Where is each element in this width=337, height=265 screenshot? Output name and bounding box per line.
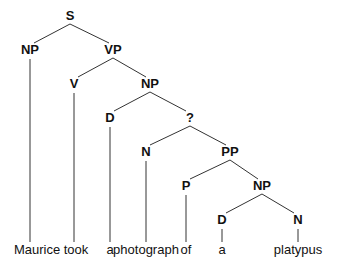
edge-vp-v [78, 58, 113, 77]
tree-edges [30, 24, 298, 242]
node-np-object: NP [141, 76, 159, 91]
node-p: P [182, 178, 191, 193]
edge-s-np [34, 24, 70, 43]
edge-q-pp [190, 126, 226, 145]
word-photograph: photograph [113, 242, 179, 257]
edge-np-q [150, 92, 186, 111]
edge-np-n2 [262, 194, 294, 213]
node-v: V [70, 76, 79, 91]
tree-words: Maurice took a photograph of a platypus [14, 242, 323, 257]
node-vp: VP [104, 42, 122, 57]
edge-vp-np [113, 58, 146, 77]
node-n: N [141, 144, 150, 159]
node-pp: PP [221, 144, 239, 159]
node-np-pobj: NP [253, 178, 271, 193]
word-of: of [181, 242, 192, 257]
edge-pp-np [230, 160, 258, 179]
word-a-2: a [218, 242, 226, 257]
tree-nodes: S NP VP V NP D ? N PP P NP D N [21, 8, 303, 227]
node-np-subject: NP [21, 42, 39, 57]
node-d2: D [217, 212, 226, 227]
word-maurice: Maurice [14, 242, 60, 257]
edge-pp-p [190, 160, 230, 179]
edge-np-d2 [226, 194, 262, 213]
node-s: S [66, 8, 75, 23]
word-took: took [64, 242, 89, 257]
word-platypus: platypus [274, 242, 323, 257]
parse-tree: S NP VP V NP D ? N PP P NP D N Maurice t… [0, 0, 337, 265]
node-n2: N [293, 212, 302, 227]
node-d: D [105, 110, 114, 125]
edge-s-vp [70, 24, 109, 43]
edge-np-d [114, 92, 150, 111]
node-unknown: ? [186, 110, 194, 125]
edge-q-n [150, 126, 190, 145]
